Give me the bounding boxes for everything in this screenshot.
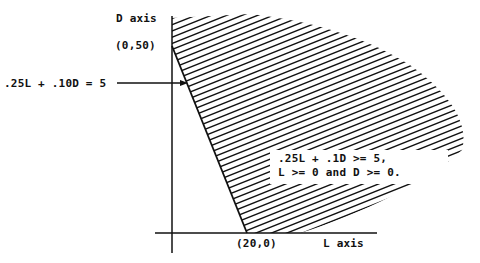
hatch-pattern	[160, 0, 480, 263]
region-label-line1: .25L + .1D >= 5,	[278, 152, 387, 165]
x-axis-label: L axis	[323, 237, 364, 250]
feasible-region-diagram	[0, 0, 480, 263]
region-label-line2: L >= 0 and D >= 0.	[278, 166, 401, 179]
constraint-line-label: .25L + .10D = 5	[4, 77, 106, 90]
point-0-50-label: (0,50)	[115, 39, 156, 52]
point-20-0-label: (20,0)	[236, 237, 277, 250]
y-axis-label: D axis	[116, 12, 157, 25]
